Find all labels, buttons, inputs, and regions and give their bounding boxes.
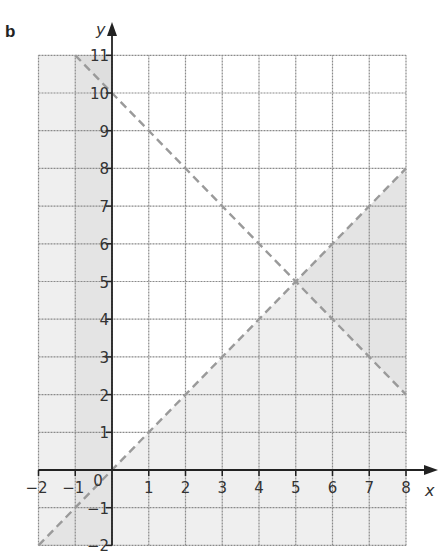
y-tick-label: 7 <box>99 198 109 216</box>
y-tick-label: 8 <box>99 160 109 178</box>
x-tick-label: 5 <box>291 479 301 497</box>
y-tick-label: 2 <box>99 387 109 405</box>
x-tick-label: −2 <box>25 479 47 497</box>
y-tick-label: 9 <box>99 123 109 141</box>
x-tick-label: 4 <box>254 479 264 497</box>
y-tick-label: −2 <box>87 537 109 554</box>
x-tick-label: 1 <box>144 479 154 497</box>
y-tick-label: 10 <box>90 85 109 103</box>
x-axis-label: x <box>424 481 435 500</box>
y-tick-label: 6 <box>99 236 109 254</box>
y-tick-label: 11 <box>90 47 109 65</box>
inequality-graph: −2−1012345678−2−11234567891011xy <box>0 0 438 554</box>
y-tick-label: 5 <box>99 274 109 292</box>
x-axis-arrow-icon <box>424 465 438 475</box>
y-tick-label: 3 <box>99 349 109 367</box>
x-tick-label: 2 <box>181 479 191 497</box>
x-tick-label: 6 <box>328 479 338 497</box>
y-tick-label: −1 <box>87 500 109 518</box>
y-axis-arrow-icon <box>107 22 117 36</box>
y-tick-label: 1 <box>99 424 109 442</box>
y-tick-label: 4 <box>99 311 109 329</box>
x-tick-label: 8 <box>401 479 411 497</box>
x-tick-label: 3 <box>217 479 227 497</box>
x-tick-label: −1 <box>62 479 84 497</box>
x-tick-label: 7 <box>364 479 374 497</box>
x-tick-label: 0 <box>93 472 103 490</box>
y-axis-label: y <box>95 20 106 39</box>
